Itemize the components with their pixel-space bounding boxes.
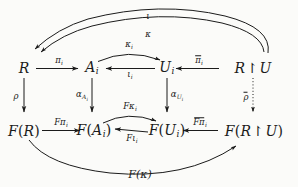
label-iota: ι: [146, 12, 149, 21]
label-F-pi-i-sym: Fπ: [54, 117, 65, 127]
label-rhobar-sym: ρ: [244, 92, 249, 102]
label-pi-i-sub: i: [61, 59, 63, 66]
label-kappa-i-sub: i: [131, 43, 133, 50]
arrow-kappa-i: [98, 54, 160, 61]
label-F-iota-i: Fιi: [126, 134, 137, 144]
node-A-i-sub: i: [96, 66, 99, 76]
label-iota-i-sym: ι: [127, 69, 130, 79]
label-kappa: κ: [145, 30, 151, 39]
label-rho: ρ: [14, 92, 19, 101]
node-F-R-restricted-U: F(R↾U): [225, 124, 283, 138]
label-F-kappa-i-sym: Fκ: [123, 101, 134, 111]
label-F-pibar-i-barred: Fπi: [193, 118, 207, 128]
node-F-A-i-close: ): [106, 122, 112, 138]
label-alpha-U-i-sym: α: [171, 89, 177, 99]
node-R: R: [19, 61, 30, 75]
node-R-restr-base: R: [234, 60, 245, 76]
node-F-A-i-base: A: [92, 122, 102, 138]
node-F-R: F(R): [8, 124, 40, 138]
label-iota-i-sub: i: [131, 73, 133, 80]
label-alpha-A-i: αAi: [76, 90, 88, 101]
label-F-pibar-i-sym: Fπ: [193, 117, 204, 127]
node-F-R-close: ): [34, 123, 40, 139]
arrow-kappa: [41, 17, 264, 52]
label-rhobar: ρ: [244, 93, 249, 102]
restriction-icon: ↾: [246, 60, 258, 76]
node-R-restr-tail: U: [260, 60, 272, 76]
node-F-A-i: F(Ai): [77, 123, 112, 139]
node-A-i-base: A: [85, 59, 95, 75]
label-iota-i: ιi: [127, 70, 132, 80]
label-iota-sym: ι: [146, 11, 149, 21]
node-F-A-i-functor: F: [77, 122, 87, 138]
node-F-R-restr-functor: F: [225, 123, 235, 139]
arrow-F-iota-i: [115, 129, 148, 132]
arrow-iota: [35, 9, 268, 53]
node-F-R-restr-base: R: [240, 123, 251, 139]
node-R-restricted-U: R↾U: [234, 61, 271, 75]
node-R-base: R: [19, 60, 30, 76]
node-F-U-i: F(Ui): [149, 123, 186, 139]
label-pibar-i-sub: i: [201, 59, 203, 66]
label-rhobar-barred: ρ: [244, 93, 249, 102]
label-alpha-A-i-sym: α: [76, 89, 82, 99]
label-F-kappa-i: Fκi: [123, 102, 137, 112]
label-pibar-i-sym: π: [195, 55, 201, 65]
label-alpha-U-i: αUi: [171, 90, 183, 101]
label-F-pibar-i-sub: i: [205, 121, 207, 128]
label-pibar-i-barred: πi: [195, 56, 203, 66]
label-kappa-i: κi: [125, 40, 133, 50]
node-F-R-restr-close: ): [277, 123, 283, 139]
node-U-i-base: U: [159, 59, 171, 75]
label-alpha-A-i-subsub: i: [86, 96, 87, 101]
label-F-iota-i-sub: i: [136, 137, 138, 144]
label-F-kappa: F(κ): [128, 169, 151, 180]
label-F-kappa-sym: F(κ): [128, 168, 151, 181]
label-kappa-i-sym: κ: [125, 39, 131, 49]
label-pibar-i: πi: [195, 56, 203, 66]
node-F-R-functor: F: [8, 123, 18, 139]
label-kappa-sym: κ: [145, 29, 151, 39]
label-F-pi-i: Fπi: [54, 118, 68, 128]
label-F-pibar-i: Fπi: [193, 118, 207, 128]
node-F-U-i-functor: F: [149, 122, 159, 138]
node-U-i: Ui: [159, 60, 174, 76]
node-F-U-i-base: U: [164, 122, 176, 138]
figure-canvas: R Ai Ui R↾U F(R) F(Ai) F(Ui) F(R↾U) πi ι…: [0, 0, 298, 187]
label-pi-i-sym: π: [55, 55, 61, 65]
label-F-iota-i-sym: Fι: [126, 133, 135, 143]
label-F-pi-i-sub: i: [66, 121, 68, 128]
node-F-R-restr-tail: U: [265, 123, 277, 139]
label-alpha-A-i-sub: Ai: [82, 93, 88, 100]
node-U-i-sub: i: [172, 66, 175, 76]
node-F-U-i-close: ): [180, 122, 186, 138]
label-F-kappa-i-sub: i: [135, 105, 137, 112]
label-alpha-U-i-subsub: i: [182, 96, 183, 101]
node-A-i: Ai: [85, 60, 99, 76]
restriction-icon: ↾: [252, 123, 264, 139]
label-alpha-U-i-sub: Ui: [177, 93, 184, 100]
node-F-R-base: R: [24, 123, 35, 139]
label-pi-i: πi: [55, 56, 63, 66]
label-rho-sym: ρ: [14, 91, 19, 101]
